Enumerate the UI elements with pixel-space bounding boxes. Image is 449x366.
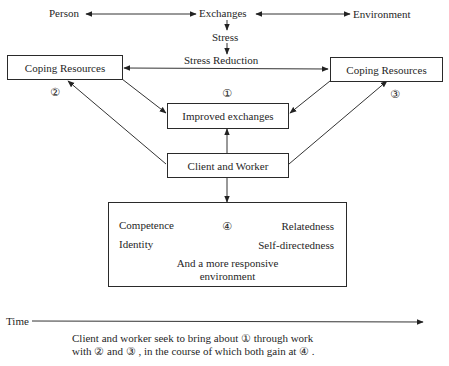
coping-resources-right-box: Coping Resources (330, 57, 443, 82)
client-worker-box: Client and Worker (167, 153, 289, 178)
coping-resources-left-box: Coping Resources (7, 55, 123, 80)
label-exchanges: Exchanges (199, 7, 247, 20)
marker-1: ① (222, 87, 232, 100)
arrow-client-copingright (289, 81, 387, 164)
coping-left-label: Coping Resources (25, 62, 105, 74)
label-relatedness: Relatedness (281, 220, 334, 233)
arrow-coping-coping (124, 68, 328, 69)
label-time: Time (6, 315, 29, 328)
arrow-copingright-improved (290, 81, 330, 113)
caption-line1: Client and worker seek to bring about ① … (72, 332, 313, 345)
marker-2: ② (50, 86, 60, 99)
improved-label: Improved exchanges (182, 110, 273, 122)
label-stress: Stress (212, 31, 238, 44)
outcome-box: Competence ④ Relatedness Identity Self-d… (108, 202, 347, 287)
label-env-line1: And a more responsive (109, 257, 346, 270)
label-environment: Environment (353, 8, 410, 21)
arrow-copingleft-improved (122, 79, 166, 113)
time-axis (32, 321, 423, 322)
arrow-client-copingleft (68, 81, 166, 164)
label-identity: Identity (119, 238, 153, 251)
coping-right-label: Coping Resources (346, 64, 426, 76)
marker-3: ③ (390, 88, 400, 101)
improved-exchanges-box: Improved exchanges (167, 103, 289, 129)
client-worker-label: Client and Worker (188, 160, 269, 172)
label-stress-reduction: Stress Reduction (184, 54, 258, 67)
label-env-line2: environment (109, 270, 346, 283)
label-person: Person (49, 7, 79, 20)
label-competence: Competence (119, 219, 174, 232)
caption-line2: with ② and ③ , in the course of which bo… (72, 345, 315, 358)
marker-4: ④ (222, 220, 232, 233)
label-self-directedness: Self-directedness (258, 239, 334, 252)
